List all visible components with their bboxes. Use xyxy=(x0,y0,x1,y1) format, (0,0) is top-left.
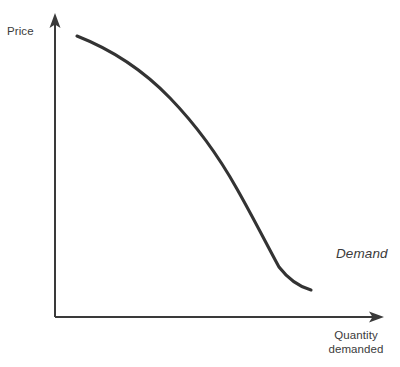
y-axis-label: Price xyxy=(7,24,34,38)
x-axis-label: Quantity demanded xyxy=(316,328,396,356)
y-axis xyxy=(50,13,61,317)
chart-canvas xyxy=(0,0,400,367)
x-axis-label-line-2: demanded xyxy=(316,342,396,356)
demand-curve-path xyxy=(77,36,311,290)
demand-curve-diagram: Price Demand Quantity demanded xyxy=(0,0,400,367)
x-axis xyxy=(55,312,384,323)
x-axis-label-line-1: Quantity xyxy=(316,328,396,342)
demand-curve-group xyxy=(77,36,311,290)
demand-curve-label: Demand xyxy=(336,246,388,262)
